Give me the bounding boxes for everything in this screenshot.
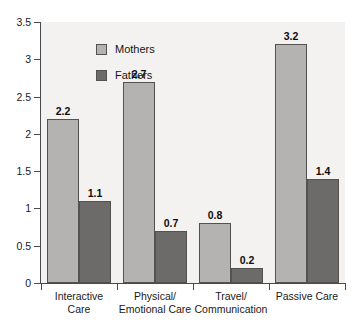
bar-fathers-2	[231, 268, 263, 283]
category-label-line1: Travel/	[193, 290, 269, 303]
y-tick-label: 2	[25, 129, 31, 140]
y-tick-label: 3	[25, 54, 31, 65]
bar-value-label: 2.7	[123, 69, 155, 80]
y-tick-label: 1.5	[16, 166, 31, 177]
category-label-line2: Emotional Care	[117, 303, 193, 316]
y-tick-mark	[34, 59, 40, 60]
bar-chart-figure: Mothers Fathers 2.21.12.70.70.80.23.21.4…	[0, 0, 364, 335]
x-category-label: Passive Care	[269, 290, 345, 303]
legend-item-mothers: Mothers	[96, 40, 155, 59]
bar-value-label: 0.2	[231, 255, 263, 266]
bar-fathers-3	[307, 179, 339, 283]
y-tick-mark	[34, 246, 40, 247]
x-category-label: Physical/Emotional Care	[117, 290, 193, 316]
category-label-line1: Interactive	[41, 290, 117, 303]
y-tick-label: 1	[25, 203, 31, 214]
bar-value-label: 3.2	[275, 31, 307, 42]
y-tick-mark	[34, 208, 40, 209]
x-category-label: InteractiveCare	[41, 290, 117, 316]
bar-fathers-0	[79, 201, 111, 283]
bar-mothers-3	[275, 44, 307, 283]
category-label-line1: Passive Care	[269, 290, 345, 303]
bar-fathers-1	[155, 231, 187, 283]
category-label-line2: Care	[41, 303, 117, 316]
y-tick-mark	[34, 22, 40, 23]
plot-area: Mothers Fathers 2.21.12.70.70.80.23.21.4	[41, 22, 345, 283]
y-tick-mark	[34, 283, 40, 284]
y-axis-line	[40, 22, 41, 284]
bar-value-label: 0.7	[155, 218, 187, 229]
y-tick-label: 0	[25, 278, 31, 289]
y-tick-label: 3.5	[16, 17, 31, 28]
y-tick-mark	[34, 134, 40, 135]
bar-mothers-1	[123, 82, 155, 283]
bar-mothers-2	[199, 223, 231, 283]
bar-value-label: 0.8	[199, 210, 231, 221]
legend-swatch-fathers	[96, 70, 107, 81]
x-category-label: Travel/Communication	[193, 290, 269, 316]
bar-value-label: 1.4	[307, 166, 339, 177]
y-tick-mark	[34, 171, 40, 172]
category-label-line1: Physical/	[117, 290, 193, 303]
category-label-line2: Communication	[193, 303, 269, 316]
bar-value-label: 2.2	[47, 106, 79, 117]
y-tick-mark	[34, 97, 40, 98]
x-tick-mark	[345, 284, 346, 290]
bar-value-label: 1.1	[79, 188, 111, 199]
y-tick-label: 2.5	[16, 92, 31, 103]
legend-swatch-mothers	[96, 44, 107, 55]
legend-label-mothers: Mothers	[115, 44, 155, 55]
y-tick-label: 0.5	[16, 241, 31, 252]
bar-mothers-0	[47, 119, 79, 283]
